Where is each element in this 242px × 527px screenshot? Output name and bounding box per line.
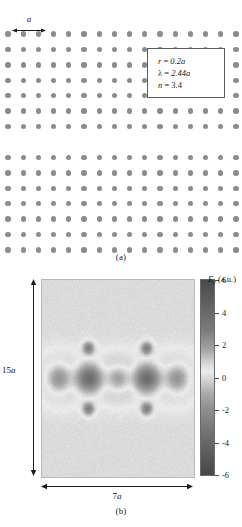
lattice-rod bbox=[233, 232, 238, 237]
lattice-rod bbox=[203, 31, 208, 36]
lattice-rod bbox=[5, 108, 10, 113]
lattice-rod bbox=[66, 201, 71, 206]
horizontal-dimension-arrow-icon bbox=[41, 482, 193, 491]
lattice-rod bbox=[51, 232, 56, 237]
field-map-image bbox=[41, 279, 195, 478]
lattice-rod bbox=[188, 124, 193, 129]
lattice-rod bbox=[66, 170, 71, 175]
lattice-rod bbox=[66, 232, 71, 237]
lattice-rod bbox=[51, 186, 56, 191]
lattice-rod bbox=[142, 232, 147, 237]
lattice-rod bbox=[5, 78, 10, 83]
lattice-rod bbox=[112, 170, 117, 175]
lattice-rod bbox=[81, 186, 86, 191]
lattice-rod bbox=[112, 108, 117, 113]
lattice-rod bbox=[127, 232, 132, 237]
lattice-rod bbox=[66, 31, 71, 36]
lattice-rod bbox=[97, 201, 102, 206]
lattice-rod bbox=[112, 232, 117, 237]
lattice-rod bbox=[21, 47, 26, 52]
lattice-rod bbox=[51, 124, 56, 129]
lattice-rod bbox=[233, 47, 238, 52]
lattice-rod bbox=[142, 170, 147, 175]
lattice-rod bbox=[81, 124, 86, 129]
lattice-rod bbox=[97, 47, 102, 52]
lattice-rod bbox=[218, 186, 223, 191]
parameter-wavelength: λ = 2.44a bbox=[158, 67, 224, 79]
lattice-rod bbox=[5, 170, 10, 175]
lattice-rod bbox=[157, 124, 162, 129]
lattice-rod bbox=[233, 216, 238, 221]
lattice-rod bbox=[66, 216, 71, 221]
lattice-rod bbox=[5, 31, 10, 36]
lattice-rod bbox=[5, 62, 10, 67]
lattice-rod bbox=[21, 201, 26, 206]
lattice-rod bbox=[188, 155, 193, 160]
lattice-rod bbox=[127, 155, 132, 160]
lattice-rod bbox=[173, 170, 178, 175]
lattice-rod bbox=[66, 78, 71, 83]
field-map-canvas bbox=[42, 280, 194, 477]
lattice-rod bbox=[66, 62, 71, 67]
lattice-rod bbox=[66, 108, 71, 113]
panel-a-lattice-diagram: a r = 0.2a λ = 2.44a n = 3.4 (a) bbox=[0, 0, 242, 270]
lattice-rod bbox=[51, 170, 56, 175]
colorbar-tick-label: -6 bbox=[222, 471, 229, 479]
lattice-rod bbox=[142, 186, 147, 191]
lattice-rod bbox=[97, 93, 102, 98]
lattice-rod bbox=[36, 47, 41, 52]
lattice-rod bbox=[21, 62, 26, 67]
colorbar: 6420-2-4-6 bbox=[200, 279, 240, 476]
lattice-rod bbox=[112, 124, 117, 129]
lattice-rod bbox=[203, 124, 208, 129]
vertical-dimension-label: 15a bbox=[2, 365, 16, 375]
lattice-rod bbox=[36, 201, 41, 206]
lattice-rod bbox=[218, 108, 223, 113]
lattice-rod bbox=[36, 108, 41, 113]
lattice-rod bbox=[36, 186, 41, 191]
lattice-rod bbox=[112, 31, 117, 36]
lattice-rod bbox=[112, 186, 117, 191]
lattice-rod bbox=[97, 186, 102, 191]
lattice-rod bbox=[21, 232, 26, 237]
lattice-rod bbox=[142, 31, 147, 36]
lattice-rod bbox=[97, 216, 102, 221]
lattice-constant-label: a bbox=[12, 14, 46, 24]
panel-a-label: (a) bbox=[0, 252, 242, 262]
figure-root: a r = 0.2a λ = 2.44a n = 3.4 (a) bbox=[0, 0, 242, 527]
lattice-rod bbox=[81, 232, 86, 237]
lattice-rod bbox=[173, 31, 178, 36]
lattice-rod bbox=[173, 216, 178, 221]
lattice-rod bbox=[5, 201, 10, 206]
field-subscript: y bbox=[213, 279, 216, 285]
lattice-rod bbox=[142, 108, 147, 113]
lattice-rod bbox=[97, 170, 102, 175]
parameter-box: r = 0.2a λ = 2.44a n = 3.4 bbox=[147, 48, 225, 98]
lattice-rod bbox=[173, 155, 178, 160]
lattice-rod bbox=[127, 124, 132, 129]
lattice-rod bbox=[66, 93, 71, 98]
lattice-rod bbox=[36, 78, 41, 83]
lattice-rod bbox=[157, 170, 162, 175]
colorbar-tick bbox=[215, 410, 219, 411]
field-quantity-label: Ey (a.u.) bbox=[208, 274, 236, 285]
lattice-rod bbox=[36, 31, 41, 36]
colorbar-tick bbox=[215, 313, 219, 314]
lattice-rod bbox=[142, 201, 147, 206]
colorbar-tick bbox=[215, 378, 219, 379]
lattice-rod bbox=[127, 31, 132, 36]
lattice-rod bbox=[97, 31, 102, 36]
lattice-rod bbox=[203, 201, 208, 206]
lattice-rod bbox=[173, 201, 178, 206]
lattice-rod bbox=[21, 31, 26, 36]
lattice-rod bbox=[157, 155, 162, 160]
lattice-rod bbox=[127, 47, 132, 52]
lattice-rod bbox=[66, 155, 71, 160]
parameter-radius: r = 0.2a bbox=[158, 55, 224, 67]
lattice-rod bbox=[127, 201, 132, 206]
horizontal-dimension-label: 7a bbox=[41, 491, 193, 501]
lattice-rod bbox=[142, 155, 147, 160]
lattice-rod bbox=[218, 232, 223, 237]
lattice-rod bbox=[81, 108, 86, 113]
lattice-rod bbox=[173, 186, 178, 191]
